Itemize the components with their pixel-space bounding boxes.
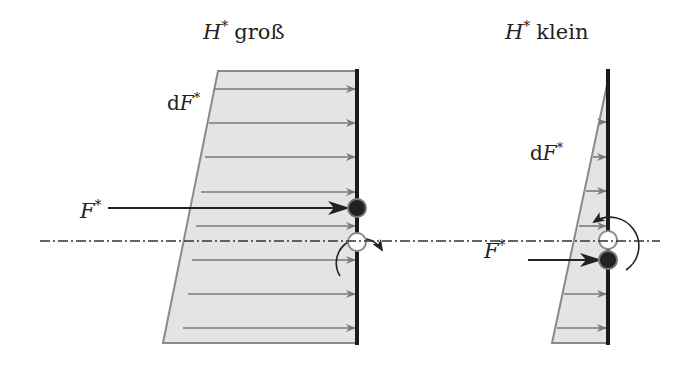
right-f-label: F* (483, 237, 506, 263)
right-df-label: dF* (530, 140, 564, 165)
pressure-center-right (599, 251, 617, 269)
left-f-label: F* (79, 197, 102, 223)
left-df-label: dF* (167, 90, 201, 115)
right-panel (528, 69, 639, 345)
centroid-right (599, 231, 617, 249)
left-panel (108, 69, 382, 345)
pressure-center-left (348, 199, 366, 217)
centroid-left (348, 233, 366, 251)
pressure-diagram: H*groß dF* F* H*klein dF* F* (0, 0, 696, 372)
pressure-distribution-right (552, 85, 607, 343)
left-title: H*groß (202, 18, 284, 44)
right-title: H*klein (504, 18, 588, 44)
